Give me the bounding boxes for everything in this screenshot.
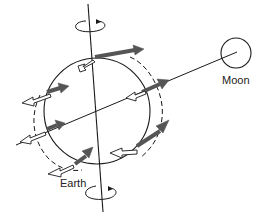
filled-arrow-top-icon xyxy=(95,45,144,57)
tidal-bulge xyxy=(34,57,162,171)
filled-arrow-upper-left-icon xyxy=(47,83,69,93)
earth-label: Earth xyxy=(60,177,86,189)
rotation-axis xyxy=(88,4,103,212)
tidal-diagram: Earth Moon xyxy=(0,0,261,215)
moon-circle xyxy=(221,38,251,68)
filled-arrow-lower-right-icon xyxy=(137,120,169,146)
hollow-arrow-left-icon xyxy=(20,132,46,144)
filled-arrow-right-icon xyxy=(142,79,169,92)
moon-label: Moon xyxy=(222,74,250,86)
filled-arrows xyxy=(47,45,169,164)
filled-arrow-bottom-icon xyxy=(75,147,93,164)
hollow-arrow-right-icon xyxy=(126,91,146,101)
